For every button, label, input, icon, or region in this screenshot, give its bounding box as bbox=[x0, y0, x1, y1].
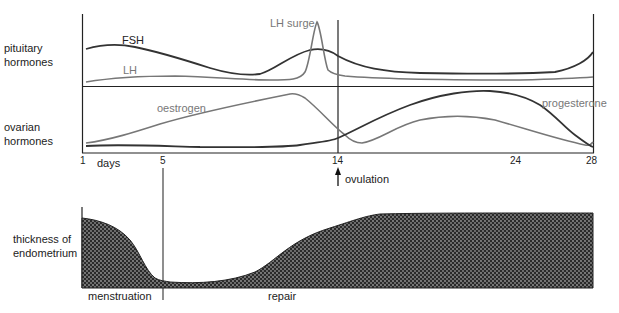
tick-1: 1 bbox=[80, 155, 86, 166]
hormone-chart-axes bbox=[82, 14, 594, 153]
lh-surge-label: LH surge bbox=[270, 17, 315, 29]
fsh-label: FSH bbox=[122, 34, 144, 46]
fsh-curve bbox=[86, 45, 593, 75]
repair-label: repair bbox=[268, 290, 296, 302]
endometrium-chart bbox=[82, 207, 593, 288]
oestrogen-label: oestrogen bbox=[157, 102, 206, 114]
menstruation-label: menstruation bbox=[88, 290, 152, 302]
pituitary-label-1: pituitary bbox=[4, 42, 43, 54]
endometrium-area bbox=[82, 213, 593, 288]
ovarian-label-2: hormones bbox=[4, 135, 53, 147]
pituitary-label-2: hormones bbox=[4, 56, 53, 68]
progesterone-curve bbox=[86, 91, 593, 147]
menstrual-cycle-diagram: pituitary hormones ovarian hormones FSH … bbox=[0, 0, 619, 313]
tick-28: 28 bbox=[586, 155, 598, 166]
tick-5: 5 bbox=[160, 155, 166, 166]
tick-14: 14 bbox=[332, 155, 344, 166]
tick-24: 24 bbox=[510, 155, 522, 166]
endometrium-label-2: endometrium bbox=[13, 247, 77, 259]
ovulation-arrow bbox=[335, 167, 341, 186]
days-label: days bbox=[97, 157, 121, 169]
progesterone-label: progesterone bbox=[542, 97, 607, 109]
endometrium-label-1: thickness of bbox=[13, 233, 72, 245]
ovulation-label: ovulation bbox=[345, 173, 389, 185]
lh-label: LH bbox=[123, 64, 137, 76]
ovarian-label-1: ovarian bbox=[4, 121, 40, 133]
